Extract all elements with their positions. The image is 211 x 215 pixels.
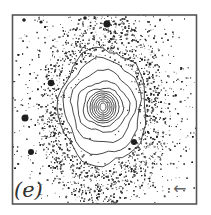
arrow-left-icon: ← (173, 179, 186, 198)
panel-label: (e) (14, 178, 43, 202)
galaxy-figure-panel: (e) ← (0, 0, 211, 215)
